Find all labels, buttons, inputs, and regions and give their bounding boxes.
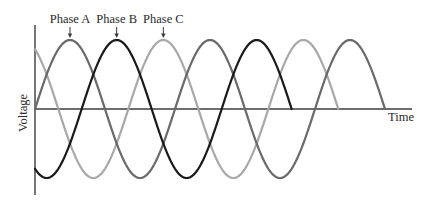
phase-b-label: Phase B	[96, 12, 137, 26]
arrowhead-icon	[161, 34, 165, 39]
annotation-phase-c: Phase C	[143, 12, 184, 38]
three-phase-voltage-chart: Phase A Phase B Phase C Voltage Time	[0, 0, 432, 207]
arrowhead-icon	[68, 34, 72, 39]
y-axis-label: Voltage	[16, 94, 30, 132]
x-axis-label: Time	[388, 110, 414, 124]
annotation-phase-b: Phase B	[96, 12, 137, 38]
phase-c-label: Phase C	[143, 12, 184, 26]
phase-a-label: Phase A	[50, 12, 91, 26]
arrowhead-icon	[114, 34, 118, 39]
annotation-phase-a: Phase A	[50, 12, 91, 38]
